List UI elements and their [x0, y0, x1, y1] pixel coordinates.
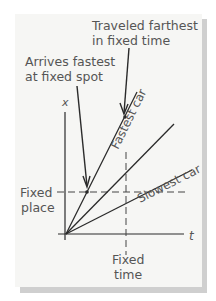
slowest-car-label: Slowest car	[135, 162, 203, 206]
arrives-fastest-pointer	[77, 86, 87, 186]
position-time-diagram: Traveled farthest in fixed time Arrives …	[0, 0, 216, 301]
fixed-place-label-1: Fixed	[20, 185, 52, 200]
annotation-traveled-farthest-1: Traveled farthest	[91, 18, 198, 33]
fixed-place-label-2: place	[21, 200, 55, 215]
x-axis-label: x	[61, 96, 69, 109]
fixed-place-intersection	[85, 190, 89, 194]
t-axis-label: t	[189, 229, 195, 243]
annotation-traveled-farthest-2: in fixed time	[92, 33, 170, 48]
annotation-arrives-fastest-1: Arrives fastest	[25, 54, 115, 69]
annotation-arrives-fastest-2: at fixed spot	[25, 69, 103, 84]
fixed-time-label-2: time	[114, 267, 143, 282]
fastest-car-label: Fastest car	[108, 87, 149, 152]
fixed-time-label-1: Fixed	[112, 252, 144, 267]
